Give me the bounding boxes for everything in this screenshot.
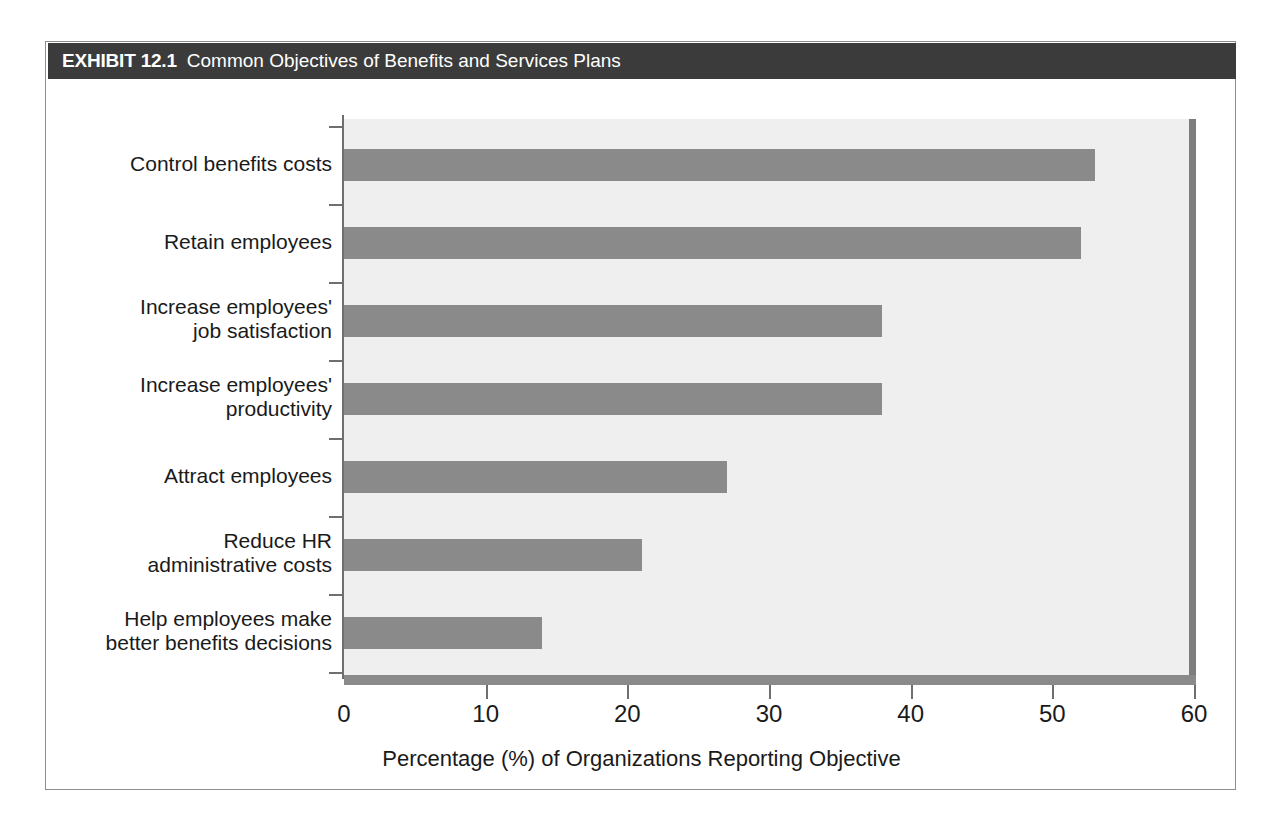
bar: [344, 149, 1095, 181]
exhibit-frame: EXHIBIT 12.1 Common Objectives of Benefi…: [45, 41, 1236, 790]
x-tick-label: 60: [1181, 700, 1208, 728]
bar: [344, 227, 1081, 259]
y-axis-label: Help employees make better benefits deci…: [106, 607, 332, 655]
x-axis-tick: [911, 685, 913, 699]
x-axis-bar: [344, 675, 1196, 685]
bar: [344, 461, 727, 493]
plot-right-edge: [1189, 119, 1196, 675]
y-axis-label: Increase employees' job satisfaction: [140, 295, 332, 343]
y-axis-label: Control benefits costs: [130, 152, 332, 176]
x-axis-tick: [627, 685, 629, 699]
x-axis-tick: [486, 685, 488, 699]
y-axis-tick: [329, 594, 343, 596]
y-axis-tick: [329, 282, 343, 284]
x-axis-title: Percentage (%) of Organizations Reportin…: [46, 746, 1237, 772]
x-tick-label: 10: [472, 700, 499, 728]
y-axis-label: Reduce HR administrative costs: [148, 529, 332, 577]
y-axis-label: Attract employees: [164, 464, 332, 488]
x-axis-tick: [769, 685, 771, 699]
y-axis-tick: [329, 360, 343, 362]
bar: [344, 305, 882, 337]
bar-chart: Control benefits costsRetain employeesIn…: [46, 42, 1237, 791]
x-tick-label: 50: [1039, 700, 1066, 728]
x-tick-label: 20: [614, 700, 641, 728]
x-axis-tick: [1194, 685, 1196, 699]
x-tick-label: 40: [897, 700, 924, 728]
y-axis-tick: [329, 438, 343, 440]
y-axis-label: Increase employees' productivity: [140, 373, 332, 421]
x-tick-label: 30: [756, 700, 783, 728]
x-axis-tick: [1052, 685, 1054, 699]
y-axis-tick: [329, 126, 343, 128]
bar: [344, 617, 542, 649]
y-axis-label: Retain employees: [164, 230, 332, 254]
y-axis-tick: [329, 516, 343, 518]
bar: [344, 539, 642, 571]
y-axis-tick: [329, 204, 343, 206]
y-axis-tick: [329, 672, 343, 674]
bar: [344, 383, 882, 415]
x-tick-label: 0: [337, 700, 350, 728]
